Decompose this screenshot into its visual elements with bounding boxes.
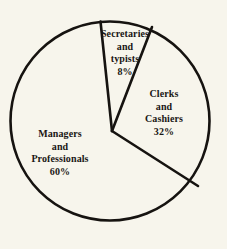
slice-label-line-3: Professionals	[8, 153, 112, 166]
slice-label-line-1: Managers	[8, 128, 112, 141]
slice-label-managers-and-professionals: Managers and Professionals 60%	[8, 128, 112, 178]
slice-label-clerks-and-cashiers: Clerks and Cashiers 32%	[124, 88, 204, 138]
slice-value-clerks-and-cashiers: 32%	[124, 126, 204, 139]
slice-label-line-2: and	[8, 141, 112, 154]
slice-label-line-2: and	[124, 101, 204, 114]
slice-label-line-3: typists	[84, 53, 166, 66]
slice-label-secretaries-and-typists: Secretaries and typists 8%	[84, 28, 166, 78]
slice-label-line-2: and	[84, 41, 166, 54]
slice-label-line-3: Cashiers	[124, 113, 204, 126]
slice-divider-clerks-end	[112, 131, 198, 186]
pie-chart-figure: Secretaries and typists 8% Clerks and Ca…	[0, 0, 227, 249]
slice-label-line-1: Clerks	[124, 88, 204, 101]
slice-value-secretaries-and-typists: 8%	[84, 66, 166, 79]
slice-label-line-1: Secretaries	[84, 28, 166, 41]
slice-value-managers-and-professionals: 60%	[8, 166, 112, 179]
